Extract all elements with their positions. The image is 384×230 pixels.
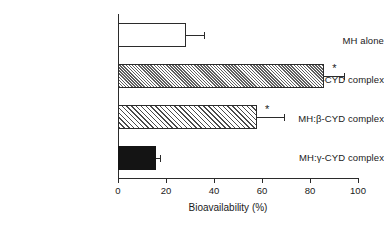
x-axis-line bbox=[118, 178, 358, 179]
bar bbox=[118, 64, 324, 88]
error-bar-line bbox=[186, 35, 204, 36]
x-tick bbox=[166, 178, 167, 183]
error-bar-cap bbox=[344, 73, 345, 80]
error-bar-line bbox=[324, 76, 343, 77]
x-axis-title-text: Bioavailability (%) bbox=[117, 202, 268, 213]
x-tick-label: 60 bbox=[257, 185, 268, 196]
x-tick bbox=[310, 178, 311, 183]
error-bar-cap bbox=[160, 155, 161, 162]
x-tick bbox=[214, 178, 215, 183]
error-bar-cap bbox=[204, 32, 205, 39]
x-axis-title: Bioavailability (%) bbox=[0, 202, 384, 214]
significance-asterisk: * bbox=[265, 104, 269, 115]
plot-area: 020406080100 ** bbox=[118, 14, 358, 178]
error-bar-line bbox=[257, 117, 283, 118]
x-tick-label: 100 bbox=[350, 185, 366, 196]
error-bar-cap bbox=[284, 114, 285, 121]
bar bbox=[118, 23, 186, 47]
x-tick bbox=[118, 178, 119, 183]
x-tick-label: 40 bbox=[209, 185, 220, 196]
x-tick bbox=[358, 178, 359, 183]
x-tick bbox=[262, 178, 263, 183]
bar bbox=[118, 146, 156, 170]
x-tick-label: 0 bbox=[115, 185, 120, 196]
significance-asterisk: * bbox=[332, 63, 336, 74]
bar-chart: MH alone MH:α-CYD complex MH:β-CYD compl… bbox=[0, 0, 384, 230]
x-tick-label: 80 bbox=[305, 185, 316, 196]
x-tick-label: 20 bbox=[161, 185, 172, 196]
bar bbox=[118, 105, 257, 129]
